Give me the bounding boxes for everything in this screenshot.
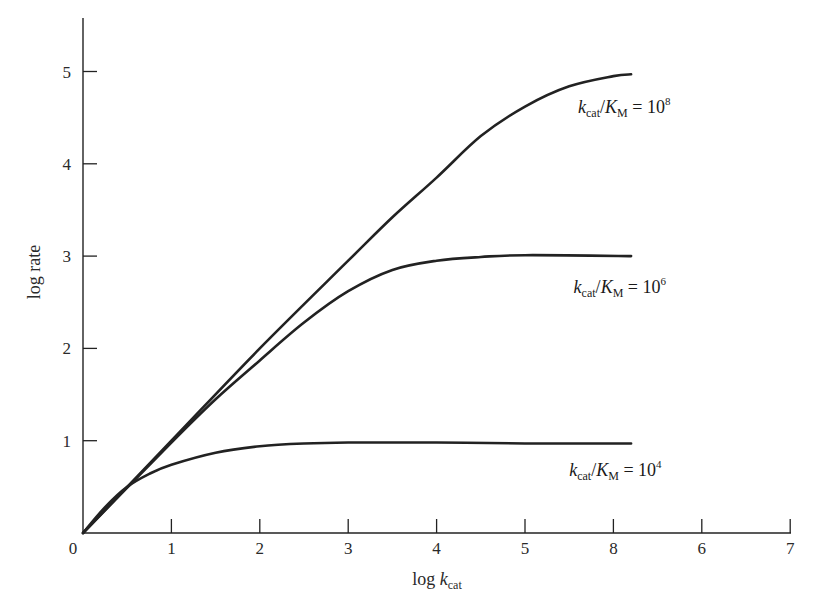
series-curve-6: [83, 255, 631, 533]
x-tick-label: 1: [167, 539, 176, 558]
series-curve-8: [83, 74, 631, 533]
origin-label: 0: [69, 539, 78, 558]
series-label-4: kcat/KM = 104: [569, 458, 662, 483]
y-tick-label: 4: [63, 155, 72, 174]
series-curve-4: [83, 442, 631, 533]
series-label-8: kcat/KM = 108: [578, 95, 671, 120]
x-tick-label: 6: [698, 539, 707, 558]
x-tick-label: 3: [344, 539, 353, 558]
y-axis-label: log rate: [24, 245, 44, 299]
x-tick-label: 4: [432, 539, 441, 558]
axes: 12345867012345: [63, 18, 795, 558]
x-tick-label: 2: [256, 539, 265, 558]
x-tick-label: 7: [786, 539, 795, 558]
y-tick-label: 1: [63, 432, 72, 451]
curves: [83, 74, 631, 533]
series-label-6: kcat/KM = 106: [574, 275, 667, 300]
y-tick-label: 3: [63, 247, 72, 266]
y-tick-label: 2: [63, 339, 72, 358]
y-tick-label: 5: [63, 63, 72, 82]
x-tick-label: 8: [609, 539, 618, 558]
labels: log kcatlog ratekcat/KM = 108kcat/KM = 1…: [24, 95, 671, 592]
chart: 12345867012345 log kcatlog ratekcat/KM =…: [0, 0, 816, 610]
x-axis-label: log kcat: [412, 569, 462, 592]
x-tick-label: 5: [521, 539, 530, 558]
